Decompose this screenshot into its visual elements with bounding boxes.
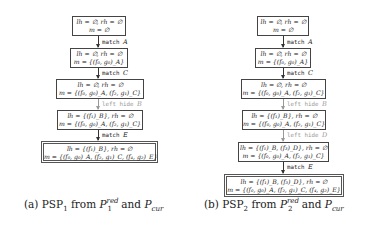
arrow-icon [283,68,284,78]
arrow-icon [98,99,99,109]
state-a-1: lh = ∅, rh = ∅ m = {(f₀, g₀)_A} [70,48,128,68]
state-line: m = {(f₀, g₀)_A, (f₂, g₁)_C, (f₄, g₂)_E} [44,153,155,161]
state-line: lh = ∅, rh = ∅ [256,50,310,58]
state-line: lh = ∅, rh = ∅ [242,81,325,89]
arrow-icon [283,162,284,173]
state-line: m = {(f₀, g₀)_A, (f₂, g₁)_C} [58,120,142,128]
transition-label: match A [287,38,313,46]
transition-label: left hide B [102,100,142,108]
state-line: m = {(f₀, g₀)_A, (f₂, g₁)_C} [242,89,325,97]
panel-a: lh = ∅, rh = ∅ m = ∅ match A lh = ∅, rh … [0,0,191,225]
arrow-icon [283,99,284,109]
state-a-3: lh = {(f₁)_B}, rh = ∅ m = {(f₀, g₀)_A, (… [57,110,143,130]
state-line: m = {(f₀, g₀)_A} [256,58,310,66]
transition-label: match C [102,69,128,77]
state-b-1: lh = ∅, rh = ∅ m = {(f₀, g₀)_A} [255,48,311,68]
state-line: m = {(f₀, g₀)_A, (f₂, g₁)_C} [57,89,143,97]
state-line: lh = ∅, rh = ∅ [57,81,143,89]
state-line: lh = ∅, rh = ∅ [71,50,127,58]
arrow-icon [283,36,284,47]
state-b-2: lh = ∅, rh = ∅ m = {(f₀, g₀)_A, (f₂, g₁)… [241,79,326,99]
state-line: m = {(f₀, g₀)_A, (f₂, g₁)_C} [239,152,328,160]
transition-label: left hide D [287,131,327,139]
state-a-2: lh = ∅, rh = ∅ m = {(f₀, g₀)_A, (f₂, g₁)… [56,79,144,99]
transition-label: left hide B [287,100,327,108]
state-b-4: lh = {(f₁)_B, (f₃)_D}, rh = ∅ m = {(f₀, … [238,142,329,162]
transition-label: match E [102,131,128,139]
arrow-icon [98,68,99,78]
state-b-3: lh = {(f₁)_B}, rh = ∅ m = {(f₀, g₀)_A, (… [242,110,326,130]
state-line: lh = ∅, rh = ∅ [73,18,125,26]
transition-label: match A [102,38,128,46]
caption-b: (b) PSP2 from Pred2 and Pcur [204,197,344,213]
state-line: m = ∅ [258,26,308,34]
state-b-5-final: lh = {(f₁)_B, (f₃)_D}, rh = ∅ m = {(f₀, … [224,174,344,197]
transition-label: match C [287,69,313,77]
state-line: lh = {(f₁)_B, (f₃)_D}, rh = ∅ [227,178,341,186]
state-a-4-final: lh = {(f₁)_B}, rh = ∅ m = {(f₀, g₀)_A, (… [41,141,158,163]
state-line: m = {(f₀, g₀)_A, (f₂, g₁)_C, (f₄, g₂)_E} [227,186,341,194]
state-line: m = ∅ [73,26,125,34]
transition-label: match E [287,163,313,171]
panel-b: lh = ∅, rh = ∅ m = ∅ match A lh = ∅, rh … [191,0,383,225]
state-line: lh = {(f₁)_B}, rh = ∅ [243,112,325,120]
state-line: lh = ∅, rh = ∅ [258,18,308,26]
arrow-icon [98,130,99,140]
state-b-0: lh = ∅, rh = ∅ m = ∅ [257,16,309,36]
state-line: lh = {(f₁)_B}, rh = ∅ [44,145,155,153]
state-a-0: lh = ∅, rh = ∅ m = ∅ [72,16,126,36]
state-line: m = {(f₀, g₀)_A} [71,58,127,66]
state-line: lh = {(f₁)_B}, rh = ∅ [58,112,142,120]
state-line: m = {(f₀, g₀)_A, (f₂, g₁)_C} [243,120,325,128]
arrow-icon [98,36,99,47]
state-line: lh = {(f₁)_B, (f₃)_D}, rh = ∅ [239,144,328,152]
arrow-icon [283,130,284,141]
caption-a: (a) PSP1 from Pred1 and Pcur [24,197,163,213]
